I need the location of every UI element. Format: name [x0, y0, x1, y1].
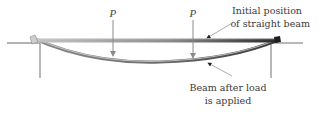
- initial-pointer-arrow: [207, 22, 234, 38]
- initial-label-line2: of straight beam: [230, 18, 310, 29]
- beam-diagram: P P Initial position of straight beam Be…: [0, 0, 320, 118]
- right-beam-end: [274, 36, 281, 43]
- load-1: P: [109, 7, 117, 54]
- annotation-initial-position: Initial position of straight beam: [207, 5, 310, 38]
- annotation-deflected-beam: Beam after load is applied: [190, 63, 267, 106]
- deflected-label-line1: Beam after load: [190, 82, 267, 93]
- load-2: P: [189, 7, 197, 56]
- deflected-label-line2: is applied: [205, 95, 252, 106]
- load-2-label: P: [189, 7, 197, 19]
- deflected-pointer-arrow: [208, 63, 232, 76]
- left-support: [7, 43, 40, 78]
- initial-label-line1: Initial position: [232, 5, 302, 16]
- right-support: [271, 43, 303, 78]
- load-1-label: P: [109, 7, 117, 19]
